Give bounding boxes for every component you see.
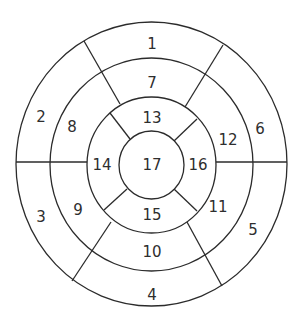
inner-spoke-bottom-left bbox=[104, 189, 127, 210]
segment-label-11: 11 bbox=[208, 198, 227, 216]
inner-spoke-bottom-right bbox=[174, 189, 197, 211]
segment-label-6: 6 bbox=[255, 120, 265, 138]
segment-label-1: 1 bbox=[147, 35, 157, 53]
segment-label-2: 2 bbox=[36, 108, 46, 126]
inner-spoke-top-left bbox=[110, 113, 130, 139]
segment-label-16: 16 bbox=[188, 156, 207, 174]
segment-label-15: 15 bbox=[142, 206, 161, 224]
segment-label-5: 5 bbox=[248, 221, 258, 239]
spoke-top-right bbox=[185, 45, 223, 107]
segment-labels: 1234567891011121314151617 bbox=[36, 35, 265, 304]
segment-label-9: 9 bbox=[73, 201, 83, 219]
spoke-top-left bbox=[84, 41, 120, 104]
segment-label-17: 17 bbox=[142, 156, 161, 174]
bullseye-diagram: 1234567891011121314151617 bbox=[0, 0, 294, 318]
segment-label-7: 7 bbox=[147, 74, 157, 92]
segment-label-8: 8 bbox=[67, 118, 77, 136]
segment-label-4: 4 bbox=[147, 286, 157, 304]
spoke-bottom-left bbox=[72, 222, 111, 281]
spoke-bottom-right bbox=[187, 222, 222, 286]
segment-label-10: 10 bbox=[142, 243, 161, 261]
inner-spoke-top-right bbox=[174, 119, 197, 141]
segment-label-3: 3 bbox=[36, 208, 46, 226]
segment-label-13: 13 bbox=[142, 109, 161, 127]
segment-label-14: 14 bbox=[92, 156, 111, 174]
segment-label-12: 12 bbox=[218, 131, 237, 149]
